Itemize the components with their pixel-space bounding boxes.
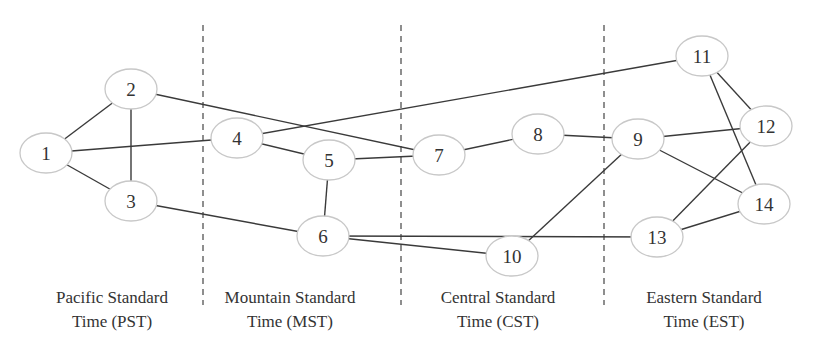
node-label: 10 (503, 246, 522, 267)
node-8: 8 (512, 114, 564, 154)
edge-1-4 (46, 138, 237, 153)
node-label: 3 (126, 191, 136, 212)
node-label: 2 (126, 79, 136, 100)
node-label: 12 (757, 116, 776, 137)
zone-label-mst: Mountain Standard Time (MST) (195, 286, 385, 334)
zone-label-line2: Time (CST) (403, 310, 593, 334)
node-10: 10 (486, 236, 538, 276)
node-label: 14 (755, 194, 775, 215)
zone-label-cst: Central Standard Time (CST) (403, 286, 593, 334)
node-14: 14 (738, 184, 790, 224)
node-label: 7 (434, 145, 444, 166)
node-11: 11 (676, 36, 728, 76)
zone-label-line1: Eastern Standard (609, 286, 799, 310)
node-13: 13 (631, 217, 683, 257)
node-label: 9 (633, 129, 643, 150)
node-label: 11 (693, 46, 711, 67)
node-7: 7 (413, 135, 465, 175)
node-1: 1 (20, 133, 72, 173)
node-label: 4 (232, 128, 242, 149)
node-2: 2 (105, 69, 157, 109)
node-label: 5 (324, 150, 334, 171)
node-4: 4 (211, 118, 263, 158)
node-5: 5 (303, 140, 355, 180)
edge-3-6 (131, 201, 323, 236)
zone-label-line2: Time (PST) (17, 310, 207, 334)
node-12: 12 (740, 106, 792, 146)
node-label: 6 (318, 226, 328, 247)
zone-label-line1: Central Standard (403, 286, 593, 310)
zone-label-line2: Time (MST) (195, 310, 385, 334)
timezone-dividers (203, 25, 604, 305)
node-3: 3 (105, 181, 157, 221)
edge-6-13 (323, 236, 657, 237)
node-label: 8 (533, 124, 543, 145)
zone-label-pst: Pacific Standard Time (PST) (17, 286, 207, 334)
zone-label-line1: Mountain Standard (195, 286, 385, 310)
edge-6-10 (323, 236, 512, 256)
node-6: 6 (297, 216, 349, 256)
node-label: 13 (648, 227, 667, 248)
node-label: 1 (41, 143, 51, 164)
node-9: 9 (612, 119, 664, 159)
zone-label-line2: Time (EST) (609, 310, 799, 334)
edge-2-7 (131, 89, 439, 155)
zone-label-line1: Pacific Standard (17, 286, 207, 310)
edge-9-10 (512, 139, 638, 256)
zone-label-est: Eastern Standard Time (EST) (609, 286, 799, 334)
